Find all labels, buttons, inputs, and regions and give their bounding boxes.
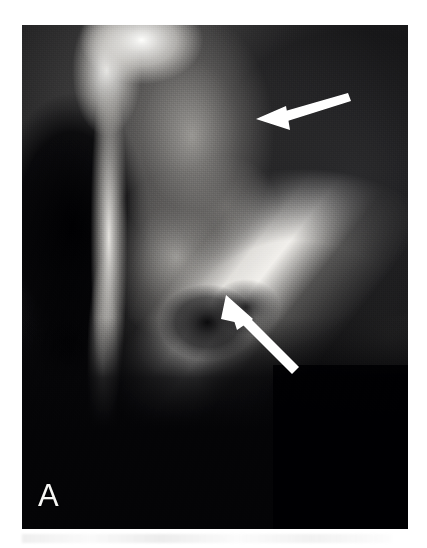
exposure-cut-region <box>273 365 408 529</box>
figure-root: A <box>0 0 427 548</box>
panel-label: A <box>38 480 59 511</box>
page-bleed-through <box>22 534 392 543</box>
radiograph-image: A <box>22 25 408 529</box>
